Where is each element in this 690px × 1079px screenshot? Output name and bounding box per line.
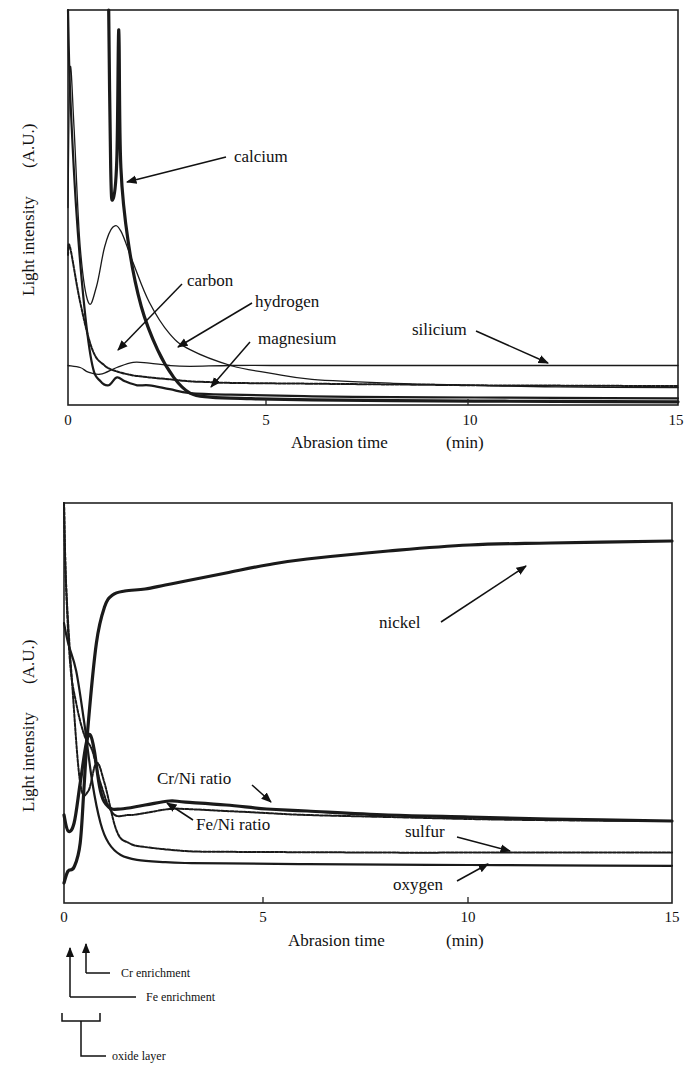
arrow-crni <box>252 785 271 802</box>
label-fe-enrichment: Fe enrichment <box>146 990 216 1004</box>
label-cr-enrichment: Cr enrichment <box>121 966 191 980</box>
top-xtick-label-5: 5 <box>262 412 270 428</box>
arrow-sulfur <box>457 837 510 851</box>
figure-canvas: 0 5 10 15 Abrasion time (min) Light inte… <box>0 0 690 1079</box>
curve-carbon <box>68 10 678 398</box>
bottom-xaxis-unit: (min) <box>446 931 484 950</box>
top-chart: 0 5 10 15 Abrasion time (min) Light inte… <box>19 10 684 452</box>
label-nickel: nickel <box>379 613 421 632</box>
top-xtick-label-10: 10 <box>463 412 478 428</box>
bottom-chart: 0 5 10 15 Abrasion time (min) Light inte… <box>19 503 680 1063</box>
bottom-chart-curves <box>64 503 672 883</box>
bottom-chart-frame <box>64 503 672 903</box>
arrow-calcium <box>127 157 226 182</box>
top-chart-frame <box>68 10 678 405</box>
curve-fe-ni-ratio <box>64 503 672 821</box>
bottom-xtick-label-5: 5 <box>259 909 267 925</box>
arrow-silicium <box>476 331 548 363</box>
label-calcium: calcium <box>234 147 288 166</box>
top-xtick-label-15: 15 <box>669 412 684 428</box>
leader-oxide-layer <box>81 1021 106 1056</box>
bottom-xtick-label-10: 10 <box>461 909 476 925</box>
label-oxide-layer: oxide layer <box>112 1049 166 1063</box>
label-silicium: silicium <box>412 320 467 339</box>
top-xtick-label-0: 0 <box>64 412 72 428</box>
curve-calcium <box>109 10 678 402</box>
top-yaxis-unit: (A.U.) <box>19 124 38 168</box>
curve-hydrogen <box>68 66 678 387</box>
arrow-feni <box>167 803 193 820</box>
label-sulfur: sulfur <box>405 822 445 841</box>
arrow-nickel <box>441 566 526 622</box>
top-xaxis-unit: (min) <box>446 433 484 452</box>
label-feni: Fe/Ni ratio <box>196 815 270 834</box>
figure-caption-cutoff <box>0 1068 690 1079</box>
arrow-carbon <box>118 284 182 350</box>
curve-nickel <box>64 541 672 883</box>
label-carbon: carbon <box>187 271 234 290</box>
arrow-magnesium <box>211 342 250 387</box>
curve-sulfur <box>64 503 672 853</box>
bottom-yaxis-label: Light intensity <box>19 712 38 812</box>
label-crni: Cr/Ni ratio <box>157 769 231 788</box>
label-magnesium: magnesium <box>258 329 336 348</box>
curve-silicium <box>68 362 678 374</box>
curve-oxygen <box>64 623 672 866</box>
top-xaxis-label: Abrasion time <box>291 433 388 452</box>
top-chart-curves <box>68 10 678 402</box>
bottom-xaxis-label: Abrasion time <box>288 931 385 950</box>
arrow-oxygen <box>457 864 488 881</box>
bottom-xtick-label-15: 15 <box>665 909 680 925</box>
bracket-oxide-layer <box>62 1013 100 1021</box>
top-yaxis-label: Light intensity <box>19 196 38 296</box>
bottom-yaxis-unit: (A.U.) <box>19 640 38 684</box>
arrow-hydrogen <box>178 303 252 347</box>
bottom-xtick-label-0: 0 <box>60 909 68 925</box>
label-hydrogen: hydrogen <box>255 292 320 311</box>
label-oxygen: oxygen <box>393 875 444 894</box>
